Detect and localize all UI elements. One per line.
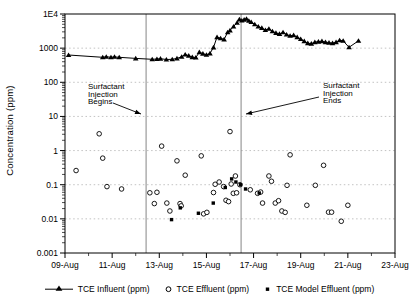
series-circle-open	[74, 129, 350, 223]
svg-text:0.1: 0.1	[46, 180, 58, 190]
svg-text:1E4: 1E4	[43, 9, 58, 19]
svg-text:10: 10	[49, 111, 59, 121]
filled-square-marker-icon	[263, 284, 272, 294]
open-circle-marker-icon	[164, 284, 173, 294]
svg-text:11-Aug: 11-Aug	[99, 260, 126, 270]
svg-text:13-Aug: 13-Aug	[146, 260, 174, 270]
svg-text:21-Aug: 21-Aug	[334, 260, 362, 270]
svg-text:19-Aug: 19-Aug	[287, 260, 315, 270]
legend-label-influent: TCE Influent (ppm)	[78, 284, 150, 294]
legend-label-model-effluent: TCE Model Effluent (ppm)	[276, 284, 374, 294]
svg-text:0.001: 0.001	[37, 248, 59, 258]
svg-text:Ends: Ends	[323, 96, 341, 105]
series-triangle-filled	[66, 16, 362, 61]
legend-item-effluent: TCE Effluent (ppm)	[164, 284, 250, 294]
chart-plot-area: 1E410001001010.10.010.00109-Aug11-Aug13-…	[0, 0, 418, 307]
y-axis-title: Concentration (ppm)	[4, 56, 15, 206]
svg-text:09-Aug: 09-Aug	[51, 260, 79, 270]
svg-text:15-Aug: 15-Aug	[193, 260, 221, 270]
tce-concentration-chart: 1E410001001010.10.010.00109-Aug11-Aug13-…	[0, 0, 418, 307]
x-tick-labels: 09-Aug11-Aug13-Aug15-Aug17-Aug19-Aug21-A…	[51, 260, 409, 270]
event-lines	[146, 14, 241, 253]
svg-text:23-Aug: 23-Aug	[381, 260, 409, 270]
annotations: SurfactantInjectionBeginsSurfactantInjec…	[88, 81, 360, 115]
svg-text:100: 100	[44, 77, 58, 87]
y-tick-labels: 1E410001001010.10.010.001	[37, 9, 59, 258]
legend-item-influent: TCE Influent (ppm)	[44, 284, 150, 294]
svg-text:1000: 1000	[39, 43, 58, 53]
svg-text:1: 1	[53, 146, 58, 156]
triangle-line-marker-icon	[44, 284, 74, 294]
axis-ticks	[60, 14, 395, 258]
svg-text:Begins: Begins	[88, 97, 112, 106]
legend-item-model-effluent: TCE Model Effluent (ppm)	[263, 284, 374, 294]
chart-legend: TCE Influent (ppm) TCE Effluent (ppm) TC…	[0, 284, 418, 294]
svg-text:0.01: 0.01	[41, 214, 58, 224]
svg-text:17-Aug: 17-Aug	[240, 260, 268, 270]
legend-label-effluent: TCE Effluent (ppm)	[177, 284, 250, 294]
